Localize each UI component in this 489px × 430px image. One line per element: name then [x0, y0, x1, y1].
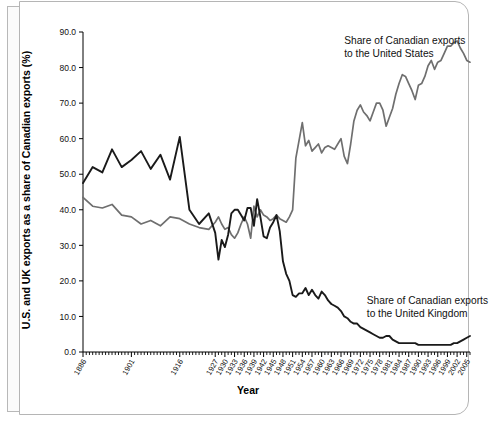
- y-axis-ticks: [79, 32, 83, 352]
- y-axis-tick-label: 40.0: [59, 205, 76, 215]
- us-series-label-line2: to the United States: [344, 48, 433, 59]
- uk-series-label-line1: Share of Canadian exports: [367, 295, 488, 306]
- series-line-united-states: [83, 41, 470, 238]
- y-axis-tick-labels: 0.010.020.030.040.050.060.070.080.090.0: [59, 27, 76, 357]
- y-axis-tick-label: 90.0: [59, 27, 76, 37]
- x-axis-tick-label: 1916: [169, 358, 185, 377]
- chart-svg: 0.010.020.030.040.050.060.070.080.090.0 …: [0, 0, 489, 430]
- x-axis-ticks: [83, 352, 470, 357]
- chart-annotations: Share of Canadian exports to the United …: [344, 35, 488, 318]
- line-chart: 0.010.020.030.040.050.060.070.080.090.0 …: [0, 0, 489, 430]
- y-axis-tick-label: 0.0: [64, 347, 76, 357]
- y-axis-tick-label: 20.0: [59, 276, 76, 286]
- x-axis-title: Year: [237, 384, 259, 396]
- x-axis-tick-labels: 1886190119161927193019331936193919421945…: [72, 358, 472, 377]
- y-axis-tick-label: 10.0: [59, 312, 76, 322]
- page-frame: 0.010.020.030.040.050.060.070.080.090.0 …: [0, 0, 489, 430]
- y-axis-tick-label: 60.0: [59, 134, 76, 144]
- x-axis-tick-label: 1901: [120, 358, 136, 377]
- y-axis-title: U.S. and UK exports as a share of Canadi…: [20, 51, 32, 329]
- y-axis-tick-label: 70.0: [59, 98, 76, 108]
- y-axis-tick-label: 80.0: [59, 63, 76, 73]
- x-axis-tick-label: 1886: [72, 358, 88, 377]
- y-axis-tick-label: 30.0: [59, 241, 76, 251]
- y-axis-tick-label: 50.0: [59, 169, 76, 179]
- uk-series-label-line2: to the United Kingdom: [367, 308, 468, 319]
- us-series-label-line1: Share of Canadian exports: [344, 35, 465, 46]
